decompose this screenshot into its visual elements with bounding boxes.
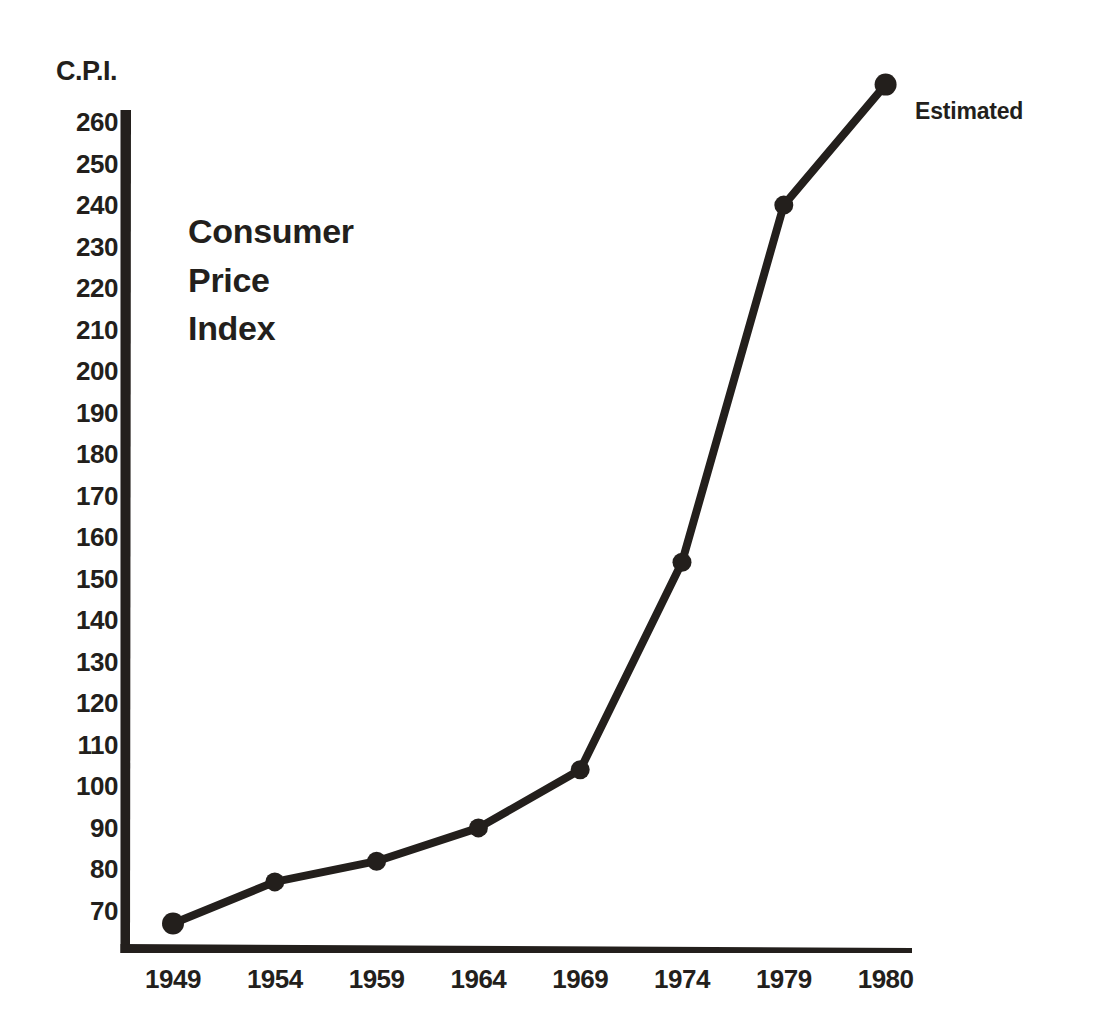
x-axis-tick-label: 1980 [816,966,956,993]
x-axis-tick-labels: 19491954195919641969197419791980 [0,966,1098,1006]
axes [121,110,913,953]
data-point-marker [571,760,590,779]
data-point-marker [367,852,386,871]
data-point-marker [162,913,184,935]
data-point-marker [265,872,284,891]
y-axis-line [121,110,132,953]
consumer-price-index-chart: C.P.I. 260250240230220210200190180170160… [0,0,1098,1035]
plot-area [0,0,1098,1035]
data-point-marker [875,74,897,96]
data-point-marker [469,818,488,837]
estimated-annotation-label: Estimated [915,98,1023,125]
data-point-marker [774,196,793,215]
data-point-markers [162,74,897,935]
x-axis-line [121,944,913,953]
data-point-marker [673,553,692,572]
